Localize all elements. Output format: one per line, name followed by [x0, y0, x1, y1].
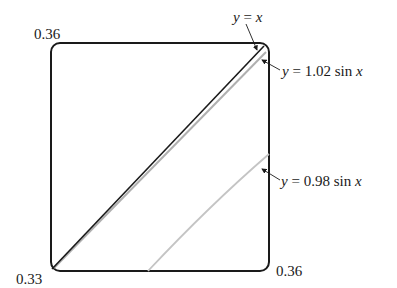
arrow-1-02-sin-x	[262, 60, 280, 70]
label-eq: = 1.02 sin	[289, 63, 356, 79]
label-rhs: x	[355, 173, 362, 189]
label-y-1-02-sin-x: y = 1.02 sin x	[282, 64, 363, 79]
curve-1-02-sin-x	[54, 52, 266, 268]
line-y-equals-x	[52, 46, 264, 269]
corner-label-bottom-right: 0.36	[276, 264, 302, 279]
corner-label-top-left: 0.36	[34, 27, 60, 42]
label-var: y	[233, 9, 240, 25]
label-var: y	[281, 173, 288, 189]
label-y-equals-x: y = x	[233, 10, 262, 25]
label-var: y	[282, 63, 289, 79]
label-rhs: x	[356, 63, 363, 79]
arrow-y-equals-x	[246, 24, 257, 50]
label-eq: = 0.98 sin	[288, 173, 355, 189]
arrow-0-98-sin-x	[262, 169, 280, 180]
curve-0-98-sin-x	[148, 154, 269, 271]
corner-label-bottom-left: 0.33	[16, 272, 42, 287]
label-eq: =	[240, 9, 256, 25]
plot-canvas	[0, 0, 397, 288]
label-y-0-98-sin-x: y = 0.98 sin x	[281, 174, 362, 189]
label-rhs: x	[256, 9, 263, 25]
